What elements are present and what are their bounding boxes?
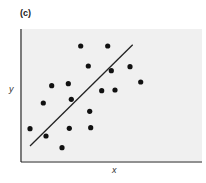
- data-point: [105, 43, 110, 48]
- data-point: [112, 87, 117, 92]
- data-point: [67, 126, 72, 131]
- data-point: [78, 43, 83, 48]
- data-point: [138, 79, 143, 84]
- data-point: [99, 88, 104, 93]
- data-point: [43, 133, 48, 138]
- data-point: [109, 68, 114, 73]
- data-points: [27, 43, 143, 150]
- data-point: [88, 125, 93, 130]
- x-axis-label: x: [112, 165, 117, 175]
- data-point: [87, 109, 92, 114]
- scatter-plot: [0, 0, 206, 183]
- regression-line: [30, 45, 133, 146]
- data-point: [41, 100, 46, 105]
- data-point: [69, 97, 74, 102]
- data-point: [66, 81, 71, 86]
- data-point: [27, 126, 32, 131]
- data-point: [49, 83, 54, 88]
- data-point: [86, 63, 91, 68]
- data-point: [127, 64, 132, 69]
- y-axis-label: y: [9, 84, 14, 94]
- data-point: [59, 145, 64, 150]
